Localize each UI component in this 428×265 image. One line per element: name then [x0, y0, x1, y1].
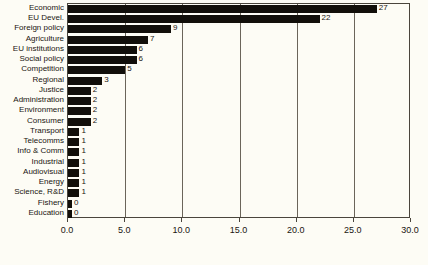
- x-tick-label: 0.0: [61, 224, 74, 237]
- bar-value-label: 1: [81, 146, 85, 156]
- bar-value-label: 2: [93, 116, 97, 126]
- x-tick-label: 5.0: [118, 224, 131, 237]
- category-label: Science, R&D: [0, 187, 64, 197]
- bar-value-label: 2: [93, 95, 97, 105]
- x-tick-label: 20.0: [287, 224, 305, 237]
- bar: [68, 169, 79, 177]
- x-tick-mark: [67, 218, 68, 222]
- bar-row: 1: [68, 137, 409, 147]
- x-tick-mark: [296, 218, 297, 222]
- bar-row: 1: [68, 168, 409, 178]
- category-label: Consumer: [0, 116, 64, 126]
- category-label: EU Devel.: [0, 13, 64, 23]
- category-label: Environment: [0, 105, 64, 115]
- x-axis-tick-labels: 0.05.010.015.020.025.030.0: [0, 224, 428, 240]
- bar: [68, 56, 137, 64]
- bar-value-label: 2: [93, 105, 97, 115]
- bar: [68, 46, 137, 54]
- bar-value-label: 27: [379, 3, 388, 13]
- x-tick-mark: [410, 218, 411, 222]
- bar-value-label: 1: [81, 136, 85, 146]
- bar-row: 2: [68, 86, 409, 96]
- bar: [68, 118, 91, 126]
- category-label: Education: [0, 208, 64, 218]
- bar: [68, 210, 72, 218]
- bar: [68, 97, 91, 105]
- x-tick-label: 15.0: [230, 224, 248, 237]
- category-label: Telecomms: [0, 136, 64, 146]
- bar: [68, 200, 72, 208]
- x-tick-mark: [124, 218, 125, 222]
- category-label: Agriculture: [0, 34, 64, 44]
- bar: [68, 87, 91, 95]
- category-label: Competition: [0, 64, 64, 74]
- bar-value-label: 9: [173, 23, 177, 33]
- x-tick-label: 30.0: [401, 224, 419, 237]
- bar-row: 2: [68, 117, 409, 127]
- bar: [68, 128, 79, 136]
- bar-value-label: 22: [322, 13, 331, 23]
- x-tick-mark: [353, 218, 354, 222]
- category-label: EU institutions: [0, 44, 64, 54]
- category-label: Social policy: [0, 54, 64, 64]
- category-label: Transport: [0, 126, 64, 136]
- bar-value-label: 0: [74, 198, 78, 208]
- bar: [68, 107, 91, 115]
- x-tick-mark: [181, 218, 182, 222]
- bar-value-label: 5: [127, 64, 131, 74]
- bar-row: 1: [68, 158, 409, 168]
- bar-row: 1: [68, 188, 409, 198]
- bar-value-label: 1: [81, 167, 85, 177]
- category-label: Administration: [0, 95, 64, 105]
- bar-row: 3: [68, 76, 409, 86]
- category-label: Foreign policy: [0, 23, 64, 33]
- x-tick-label: 25.0: [344, 224, 362, 237]
- bar: [68, 179, 79, 187]
- bar: [68, 66, 125, 74]
- bar: [68, 189, 79, 197]
- category-axis-labels: EconomicEU Devel.Foreign policyAgricultu…: [0, 3, 64, 218]
- bar-value-label: 1: [81, 126, 85, 136]
- bar-chart-figure: EconomicEU Devel.Foreign policyAgricultu…: [0, 0, 428, 265]
- bar: [68, 25, 171, 33]
- bar-value-label: 0: [74, 208, 78, 218]
- bar-row: 1: [68, 127, 409, 137]
- category-label: Audiovisual: [0, 167, 64, 177]
- bar-row: 2: [68, 96, 409, 106]
- bar-row: 6: [68, 45, 409, 55]
- bar-row: 6: [68, 55, 409, 65]
- bar-row: 27: [68, 4, 409, 14]
- bar-value-label: 2: [93, 85, 97, 95]
- bar-row: 0: [68, 199, 409, 209]
- plot-area: 27229766532222111111100: [67, 3, 410, 218]
- bar: [68, 5, 377, 13]
- bar-value-label: 3: [104, 75, 108, 85]
- category-label: Fishery: [0, 198, 64, 208]
- category-label: Regional: [0, 75, 64, 85]
- bar-row: 9: [68, 24, 409, 34]
- bar: [68, 138, 79, 146]
- bar: [68, 148, 79, 156]
- bar: [68, 159, 79, 167]
- bar-row: 22: [68, 14, 409, 24]
- category-label: Industrial: [0, 157, 64, 167]
- bar-row: 7: [68, 35, 409, 45]
- bar-value-label: 1: [81, 177, 85, 187]
- bar-row: 1: [68, 147, 409, 157]
- category-label: Economic: [0, 3, 64, 13]
- bar: [68, 15, 320, 23]
- bar: [68, 36, 148, 44]
- category-label: Justice: [0, 85, 64, 95]
- bar-rows: 27229766532222111111100: [68, 4, 409, 217]
- bar-value-label: 1: [81, 157, 85, 167]
- x-tick-label: 10.0: [173, 224, 191, 237]
- bar-value-label: 7: [150, 34, 154, 44]
- bar-value-label: 6: [139, 54, 143, 64]
- category-label: Energy: [0, 177, 64, 187]
- bar-row: 5: [68, 65, 409, 75]
- x-tick-mark: [239, 218, 240, 222]
- category-label: Info & Comm: [0, 146, 64, 156]
- bar: [68, 77, 102, 85]
- bar-value-label: 6: [139, 44, 143, 54]
- bar-value-label: 1: [81, 187, 85, 197]
